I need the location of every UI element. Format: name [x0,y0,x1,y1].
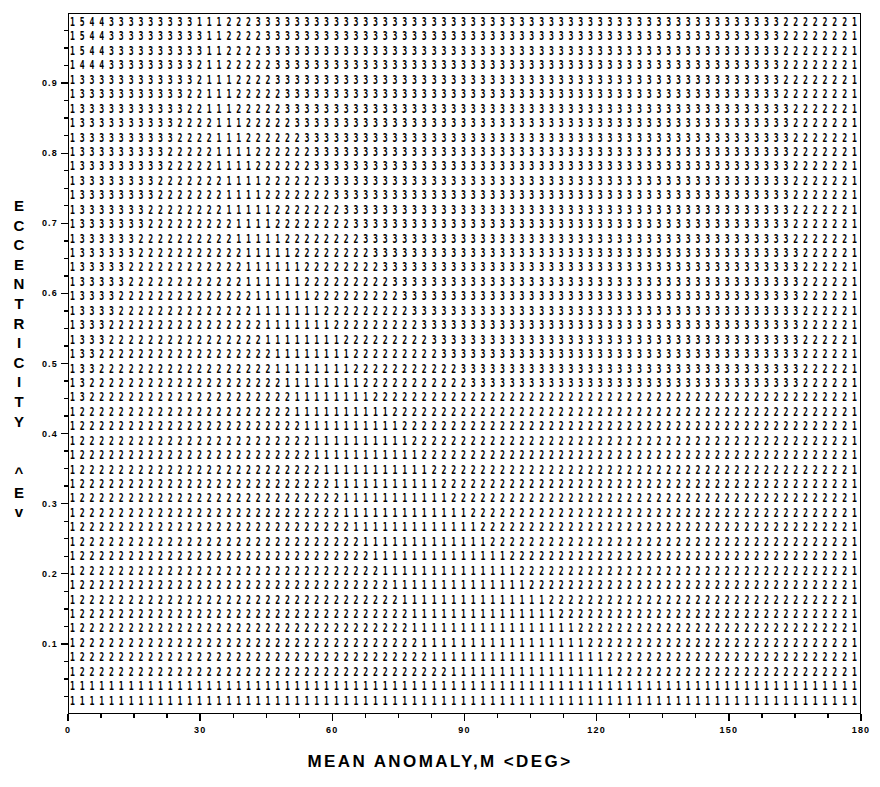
x-tick-major-150 [728,714,729,721]
y-tick-minor [64,485,68,486]
y-tick-major-0.4 [61,433,68,434]
y-tick-minor [64,661,68,662]
digit-row: 1 2 2 2 2 2 2 2 2 2 2 2 2 2 2 2 2 2 2 2 … [70,564,628,578]
x-tick-major-30 [199,714,200,721]
y-tick-minor [64,521,68,522]
y-axis-title-char-2: C [8,235,30,255]
y-tick-minor [64,415,68,416]
x-tick-label-120: 120 [587,725,606,735]
x-tick-minor [695,714,696,718]
digit-row: 1 3 3 3 3 3 3 2 2 2 2 2 2 2 2 2 2 2 1 1 … [70,246,628,260]
x-tick-minor [100,714,101,718]
y-axis-title-char-10: T [8,392,30,412]
digit-row: 1 2 2 2 2 2 2 2 2 2 2 2 2 2 2 2 2 2 2 2 … [70,535,628,549]
y-tick-minor [64,696,68,697]
y-tick-minor [64,100,68,101]
y-tick-minor [64,468,68,469]
y-axis-title-char-0: E [8,196,30,216]
x-tick-minor [365,714,366,718]
y-tick-minor [64,135,68,136]
digit-row: 1 3 3 3 2 2 2 2 2 2 2 2 2 2 2 2 2 2 2 2 … [70,333,628,347]
x-tick-minor [530,714,531,718]
digit-row: 1 5 4 4 3 3 3 3 3 3 3 3 3 1 1 1 2 2 2 3 … [70,15,628,29]
y-axis-title-char-1: C [8,216,30,236]
x-tick-minor [233,714,234,718]
digit-row: 1 2 2 2 2 2 2 2 2 2 2 2 2 2 2 2 2 2 2 2 … [70,578,628,592]
digit-row: 1 4 4 4 3 3 3 3 3 3 3 3 3 2 1 1 2 2 2 2 … [70,58,628,72]
digit-row: 1 3 3 3 3 3 3 2 2 2 2 2 2 2 2 2 2 1 1 1 … [70,232,628,246]
y-axis-title-char-11: Y [8,412,30,432]
y-tick-minor [64,345,68,346]
x-tick-label-0: 0 [65,725,71,735]
digit-row: 1 1 1 1 1 1 1 1 1 1 1 1 1 1 1 1 1 1 1 1 … [70,694,628,708]
y-tick-minor [64,275,68,276]
x-tick-minor [299,714,300,718]
digit-row: 1 5 4 4 3 3 3 3 3 3 3 3 3 3 1 1 2 2 2 2 … [70,44,628,58]
digit-row: 1 1 1 1 1 1 1 1 1 1 1 1 1 1 1 1 1 1 1 1 … [70,679,628,693]
digit-row: 1 3 3 3 2 2 2 2 2 2 2 2 2 2 2 2 2 2 2 2 … [70,318,628,332]
digit-row: 1 5 4 4 3 3 3 3 3 3 3 3 3 3 1 1 2 2 2 2 … [70,29,628,43]
x-tick-label-60: 60 [326,725,338,735]
digit-row: 1 3 3 3 3 3 3 3 3 3 3 3 2 2 1 1 1 2 2 2 … [70,87,628,101]
x-tick-minor [166,714,167,718]
x-tick-minor [563,714,564,718]
x-tick-label-180: 180 [852,725,871,735]
y-tick-major-0.8 [61,153,68,154]
digit-row: 1 2 2 2 2 2 2 2 2 2 2 2 2 2 2 2 2 2 2 2 … [70,463,628,477]
digit-row: 1 2 2 2 2 2 2 2 2 2 2 2 2 2 2 2 2 2 2 2 … [70,549,628,563]
y-tick-minor [64,47,68,48]
y-axis-title-char-5: T [8,294,30,314]
y-tick-minor [64,65,68,66]
y-tick-minor [64,626,68,627]
y-axis-unit-char-2: v [8,502,30,522]
digit-row: 1 2 2 2 2 2 2 2 2 2 2 2 2 2 2 2 2 2 2 2 … [70,636,628,650]
y-axis-unit-label: ^Ev [8,463,30,522]
x-tick-minor [761,714,762,718]
digit-row: 1 2 2 2 2 2 2 2 2 2 2 2 2 2 2 2 2 2 2 2 … [70,607,628,621]
y-tick-label-0.1: 0.1 [20,639,58,649]
y-axis-unit-char-0: ^ [8,463,30,483]
y-tick-major-0.6 [61,293,68,294]
x-tick-major-0 [67,714,68,721]
digit-row: 1 3 3 3 3 2 2 2 2 2 2 2 2 2 2 2 2 2 2 1 … [70,304,628,318]
y-axis-title-char-9: I [8,372,30,392]
y-tick-minor [64,30,68,31]
y-tick-minor [64,117,68,118]
iteration-digit-grid: 1 5 4 4 3 3 3 3 3 3 3 3 3 1 1 1 2 2 2 3 … [69,14,860,713]
digit-row: 1 3 3 3 3 3 3 3 3 2 2 2 2 2 2 2 1 1 1 1 … [70,188,628,202]
digit-row: 1 2 2 2 2 2 2 2 2 2 2 2 2 2 2 2 2 2 2 2 … [70,621,628,635]
digit-row: 1 3 2 2 2 2 2 2 2 2 2 2 2 2 2 2 2 2 2 2 … [70,376,628,390]
x-tick-minor [497,714,498,718]
digit-row: 1 2 2 2 2 2 2 2 2 2 2 2 2 2 2 2 2 2 2 2 … [70,520,628,534]
y-tick-minor [64,450,68,451]
y-tick-label-0.8: 0.8 [20,148,58,158]
y-axis-title-char-4: N [8,274,30,294]
plot-frame: 1 5 4 4 3 3 3 3 3 3 3 3 3 1 1 1 2 2 2 3 … [68,13,861,714]
digit-row: 1 3 3 3 3 3 3 3 2 2 2 2 2 2 2 2 1 1 1 1 … [70,203,628,217]
y-tick-major-0.7 [61,223,68,224]
y-tick-minor [64,205,68,206]
digit-row: 1 3 3 2 2 2 2 2 2 2 2 2 2 2 2 2 2 2 2 2 … [70,347,628,361]
x-tick-major-90 [464,714,465,721]
y-tick-minor [64,240,68,241]
digit-row: 1 3 3 3 3 3 3 3 3 3 3 2 2 2 2 1 1 1 2 2 … [70,116,628,130]
y-axis-title-char-8: C [8,353,30,373]
digit-row: 1 2 2 2 2 2 2 2 2 2 2 2 2 2 2 2 2 2 2 2 … [70,477,628,491]
y-tick-major-0.9 [61,82,68,83]
x-tick-label-90: 90 [458,725,470,735]
x-tick-minor [431,714,432,718]
x-axis-title: MEAN ANOMALY,M <DEG> [0,752,880,772]
x-tick-major-120 [596,714,597,721]
digit-row: 1 3 3 3 3 3 3 3 3 3 2 2 2 2 2 1 1 1 1 2 … [70,159,628,173]
y-tick-minor [64,678,68,679]
digit-row: 1 3 3 3 3 2 2 2 2 2 2 2 2 2 2 2 2 2 2 1 … [70,289,628,303]
digit-row: 1 3 3 3 3 3 3 3 3 3 3 3 3 2 1 1 1 2 2 2 … [70,73,628,87]
y-tick-major-0.1 [61,643,68,644]
y-axis-unit-char-1: E [8,483,30,503]
digit-row: 1 2 2 2 2 2 2 2 2 2 2 2 2 2 2 2 2 2 2 2 … [70,434,628,448]
y-tick-major-0.2 [61,573,68,574]
y-tick-label-0.9: 0.9 [20,78,58,88]
y-tick-minor [64,188,68,189]
digit-row: 1 2 2 2 2 2 2 2 2 2 2 2 2 2 2 2 2 2 2 2 … [70,405,628,419]
x-tick-minor [398,714,399,718]
